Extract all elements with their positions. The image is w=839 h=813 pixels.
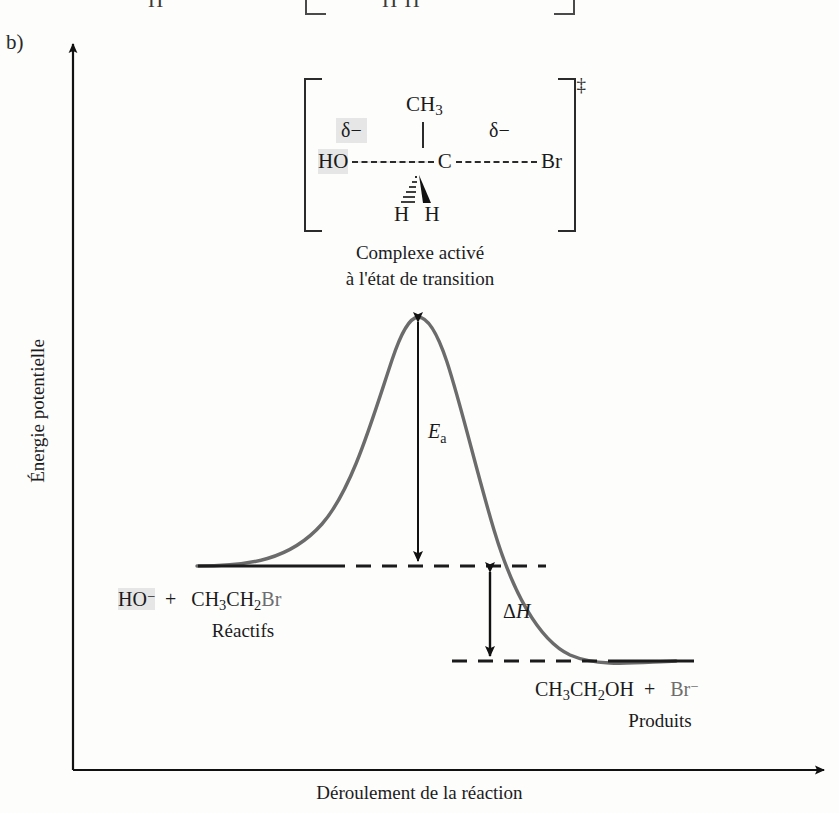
reactants-formula: HO− + CH3CH2Br: [118, 588, 281, 614]
ea-base: E: [428, 420, 440, 442]
partial-bond-left-icon: [352, 161, 433, 163]
bromine-group-label: Br: [541, 149, 562, 174]
double-dagger-icon: ‡: [577, 74, 587, 96]
delta-symbol: Δ: [503, 600, 516, 622]
hydroxide-charge: −: [147, 588, 155, 604]
panel-label: b): [6, 30, 24, 55]
transition-state-caption: Complexe activé à l'état de transition: [250, 240, 590, 291]
plus-sign-products: +: [644, 678, 655, 700]
plus-sign-reactants: +: [165, 588, 176, 610]
methyl-base: CH: [406, 92, 435, 116]
x-axis-title: Déroulement de la réaction: [0, 782, 839, 804]
partial-charge-left: δ−: [336, 118, 367, 143]
bonding-row: HO C Br: [318, 146, 562, 176]
methyl-sub: 3: [435, 102, 443, 118]
activation-energy-label: Ea: [428, 420, 446, 447]
ethanol: CH3CH2OH: [535, 678, 634, 700]
fragment-left-h: H: [148, 0, 164, 13]
enthalpy-change-label: ΔH: [503, 600, 530, 623]
central-carbon-label: C: [438, 149, 452, 174]
enthalpy-h-symbol: H: [516, 600, 530, 622]
energy-diagram-figure: H H H b): [0, 0, 839, 813]
hydroxide-ion: HO−: [118, 588, 155, 610]
solid-wedge-icon: [419, 175, 431, 203]
carbon-methyl-bond: [422, 122, 424, 148]
transition-state-structure: ‡ CH3 δ− δ− HO C Br H H: [300, 78, 580, 228]
caption-line-2: à l'état de transition: [250, 266, 590, 292]
reactants-label: Réactifs: [118, 620, 368, 642]
partial-bond-right-icon: [456, 161, 537, 163]
hydroxide-base: HO: [118, 588, 147, 610]
products-label: Produits: [535, 710, 785, 732]
hashed-wedge-icon: [401, 177, 417, 202]
partial-charge-right: δ−: [486, 118, 513, 143]
bromoethane: CH3CH2Br: [191, 588, 281, 610]
hydroxide-group-label: HO: [318, 149, 348, 174]
bromide-ion: Br−: [670, 678, 698, 700]
caption-line-1: Complexe activé: [250, 240, 590, 266]
hydrogens-label: H H: [394, 202, 445, 227]
products-formula: CH3CH2OH + Br−: [535, 678, 698, 704]
methyl-group-label: CH3: [406, 92, 443, 119]
fragment-brackets: [280, 0, 600, 22]
ea-sub: a: [440, 431, 446, 446]
y-axis-title: Énergie potentielle: [27, 291, 49, 531]
